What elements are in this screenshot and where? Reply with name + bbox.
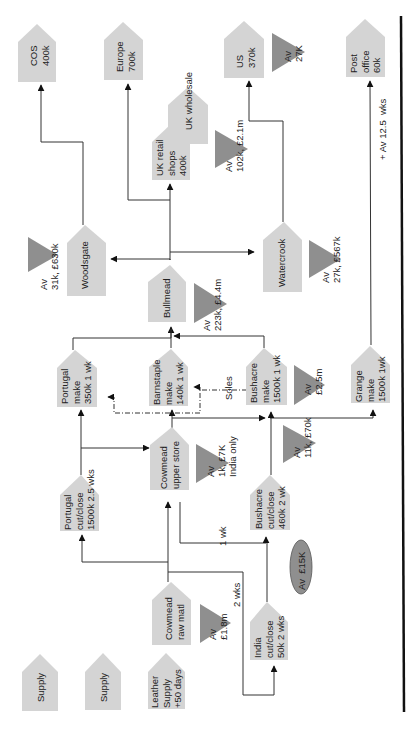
soles-flow-to-barnstaple (194, 387, 200, 390)
node-portugal-make-label: Portugal make 350k 1 wk (59, 361, 94, 404)
node-watercrook-label: Watercrook (276, 239, 288, 287)
flow-cowmead-raw-to-portugal-cut (82, 535, 168, 582)
node-uk-wholesale-label: UK wholesale (183, 72, 195, 130)
inventory-cowmead-upper-label: Av 1k, £7K India only (205, 436, 238, 477)
soles-annotation: Soles (223, 376, 234, 400)
node-bullmead-label: Bullmead (161, 278, 173, 318)
inventory-woodsgate-label: Av 31k, £630k (38, 244, 60, 290)
inventory-uk-label: Av 102k, £2.1m (223, 120, 245, 172)
inventory-cowmead-raw-label: Av £1.8m (207, 614, 229, 640)
node-supply-1-label: Supply (35, 673, 47, 702)
node-cos-label: COS 400k (28, 45, 51, 66)
inventory-us-label: Av 27K (282, 45, 304, 62)
inventory-bushacre-cut-label: Av 11k, £70k (291, 418, 313, 459)
node-bushacre-cutclose-label: Bushacre cut/close 460k 2 wk (253, 486, 288, 529)
flow-bullmead-to-woodsgate (111, 259, 170, 260)
node-bushacre-make-label: Bushacre make 1500k 1 wk (248, 355, 283, 403)
node-europe-label: Europe 700k (114, 41, 137, 72)
inventory-india-label: Av £15K (296, 552, 307, 590)
inventory-watercrook-label: Av 27k, £567k (320, 237, 342, 283)
node-grange-make-label: Grange make 1500k 1wk (353, 357, 388, 402)
node-cowmead-raw-label: Cowmead raw matl (163, 597, 186, 640)
flow-woodsgate-to-cos (41, 85, 83, 225)
node-india-cutclose-label: India cut/close 50k 2 wks (252, 616, 287, 658)
flow-bushacre-to-bullmead (174, 336, 264, 348)
flow-portugal-make-to-bullmead (73, 327, 171, 350)
node-post-office-label: Post office 60k (348, 50, 383, 73)
node-cowmead-upper-label: Cowmead upper store (158, 441, 181, 489)
one-week-annotation: 1 wk (217, 526, 228, 546)
node-leather-supply-label: Leather Supply +50 days (149, 669, 184, 708)
inventory-bullmead-label: Av 223k, £4.4m (201, 279, 223, 331)
node-us-label: US 370k (234, 47, 257, 68)
page-border-line (401, 16, 404, 712)
node-barnstaple-make-label: Barnstaple make 140k 1 wk (151, 360, 186, 405)
two-weeks-annotation: 2 wks (231, 583, 242, 607)
flow-to-grange (270, 410, 373, 418)
post-lead-time-annotation: + Av 12.5 wks (377, 99, 388, 160)
flow-grange-to-postoffice (370, 81, 371, 345)
flow-watercrook-to-us (249, 81, 283, 222)
node-supply-2-label: Supply (98, 673, 110, 702)
node-uk-retail-label: UK retail shops 400k (154, 140, 189, 176)
node-woodsgate-label: Woodsgate (79, 241, 91, 289)
inventory-bushacre-make-label: Av £2.5m (302, 369, 324, 395)
node-portugal-cutclose-label: Portugal cut/close 1500k 2.5 wks (62, 469, 97, 530)
